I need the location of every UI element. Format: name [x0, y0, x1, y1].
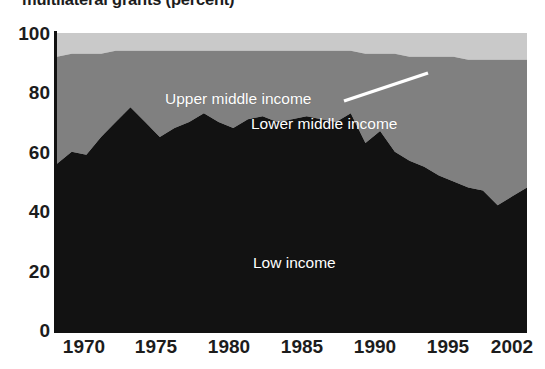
- y-tick-label-0: 0: [2, 321, 50, 340]
- y-tick-label-80: 80: [2, 83, 50, 102]
- stacked-area-svg: [57, 33, 527, 330]
- plot-area: Upper middle income Lower middle income …: [57, 33, 527, 330]
- y-tick-label-60: 60: [2, 143, 50, 162]
- x-tick-label-1980: 1980: [208, 337, 250, 356]
- x-tick-label-2002: 2002: [491, 337, 533, 356]
- x-tick-label-1995: 1995: [427, 337, 469, 356]
- x-tick-label-1975: 1975: [135, 337, 177, 356]
- y-axis-tick-labels: 100 80 60 40 20 0: [0, 0, 50, 369]
- y-tick-label-40: 40: [2, 202, 50, 221]
- chart-title: multilateral grants (percent): [22, 0, 234, 9]
- x-tick-label-1990: 1990: [354, 337, 396, 356]
- x-tick-label-1985: 1985: [281, 337, 323, 356]
- y-tick-label-20: 20: [2, 262, 50, 281]
- series-label-lower-middle-income: Lower middle income: [251, 116, 397, 132]
- y-tick-label-100: 100: [2, 24, 50, 43]
- series-label-upper-middle-income: Upper middle income: [165, 91, 311, 107]
- chart-figure: multilateral grants (percent) 100 80 60 …: [0, 0, 545, 369]
- series-label-low-income: Low income: [253, 255, 336, 271]
- x-tick-label-1970: 1970: [63, 337, 105, 356]
